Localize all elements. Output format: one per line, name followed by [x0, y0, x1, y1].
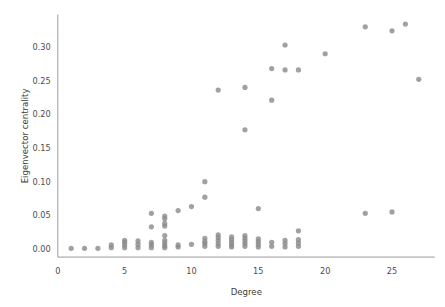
scatter-point: [162, 221, 167, 226]
plot-canvas: 0.000.050.100.150.200.250.30 0510152025 …: [0, 0, 445, 307]
x-tick-label: 15: [253, 266, 263, 276]
scatter-point: [189, 204, 194, 209]
scatter-point: [242, 85, 247, 90]
scatter-point: [282, 42, 287, 47]
scatter-point: [202, 179, 207, 184]
scatter-point: [189, 242, 194, 247]
y-tick-label: 0.15: [33, 143, 51, 153]
scatter-point: [269, 66, 274, 71]
scatter-point: [149, 211, 154, 216]
y-tick-label: 0.30: [33, 42, 51, 52]
scatter-point: [416, 77, 421, 82]
x-tick-label: 25: [387, 266, 397, 276]
scatter-point: [109, 242, 114, 247]
scatter-point: [135, 238, 140, 243]
x-axis-tick-labels: 0510152025: [55, 266, 397, 276]
scatter-point: [176, 242, 181, 247]
y-tick-label: 0.20: [33, 109, 51, 119]
scatter-point: [69, 246, 74, 251]
scatter-point: [202, 236, 207, 241]
x-tick-label: 0: [55, 266, 60, 276]
scatter-point: [229, 234, 234, 239]
scatter-point: [389, 28, 394, 33]
x-axis-title: Degree: [231, 287, 262, 297]
scatter-point: [176, 208, 181, 213]
scatter-point: [242, 127, 247, 132]
scatter-point: [82, 246, 87, 251]
scatter-point: [296, 237, 301, 242]
scatter-plot-figure: 0.000.050.100.150.200.250.30 0510152025 …: [0, 0, 445, 307]
scatter-point: [162, 213, 167, 218]
x-tick-label: 20: [320, 266, 330, 276]
scatter-point: [162, 238, 167, 243]
scatter-points-layer: [69, 22, 422, 251]
scatter-point: [216, 88, 221, 93]
scatter-point: [363, 211, 368, 216]
scatter-point: [282, 238, 287, 243]
scatter-point: [296, 67, 301, 72]
scatter-point: [162, 233, 167, 238]
scatter-point: [269, 98, 274, 103]
scatter-point: [269, 240, 274, 245]
scatter-point: [296, 228, 301, 233]
scatter-point: [256, 236, 261, 241]
scatter-point: [202, 195, 207, 200]
y-tick-label: 0.05: [33, 210, 51, 220]
scatter-point: [95, 246, 100, 251]
scatter-point: [256, 206, 261, 211]
y-axis-title: Eigenvector centrality: [20, 88, 30, 183]
x-tick-label: 10: [186, 266, 196, 276]
scatter-point: [403, 22, 408, 27]
y-axis-tick-labels: 0.000.050.100.150.200.250.30: [33, 42, 51, 254]
scatter-point: [149, 224, 154, 229]
scatter-point: [389, 209, 394, 214]
scatter-point: [363, 24, 368, 29]
scatter-point: [122, 238, 127, 243]
x-tick-label: 5: [122, 266, 127, 276]
scatter-point: [323, 51, 328, 56]
y-tick-label: 0.10: [33, 177, 51, 187]
scatter-point: [216, 232, 221, 237]
y-tick-label: 0.25: [33, 76, 51, 86]
scatter-point: [282, 67, 287, 72]
y-tick-label: 0.00: [33, 244, 51, 254]
scatter-point: [242, 233, 247, 238]
scatter-point: [149, 240, 154, 245]
